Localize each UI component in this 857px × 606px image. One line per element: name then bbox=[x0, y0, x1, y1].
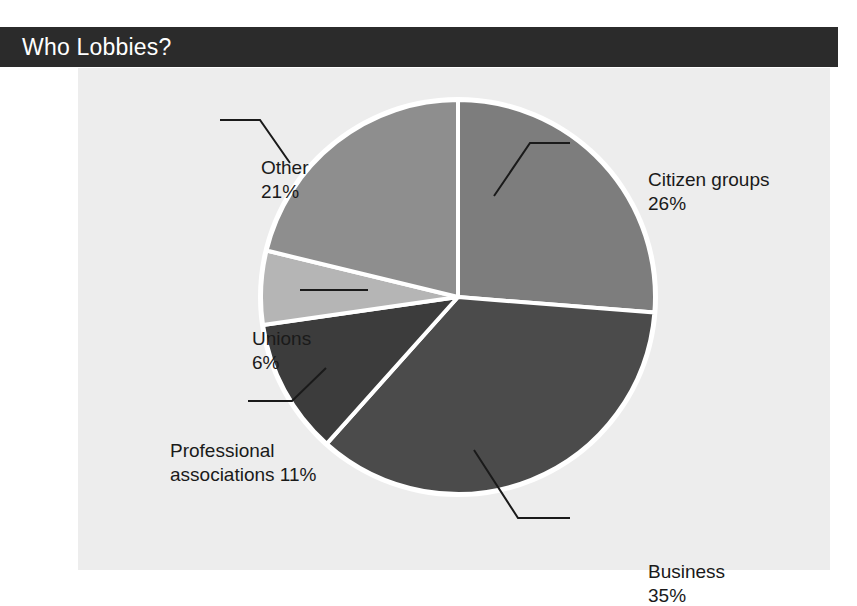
slice-label-citizen-groups-name: Citizen groups bbox=[648, 169, 769, 190]
slice-label-unions-name: Unions bbox=[252, 328, 311, 349]
slice-label-professional-associations: Professional associations 11% bbox=[170, 439, 316, 488]
slice-label-other-name: Other bbox=[261, 157, 309, 178]
slice-label-business-name: Business bbox=[648, 561, 725, 582]
page-title: Who Lobbies? bbox=[0, 34, 171, 61]
slice-label-business: Business 35% bbox=[648, 560, 725, 606]
pie-chart-svg bbox=[78, 68, 830, 570]
title-bar: Who Lobbies? bbox=[0, 27, 838, 67]
slice-label-citizen-groups-value: 26% bbox=[648, 192, 769, 216]
chart-panel: Other 21% Citizen groups 26% Unions 6% P… bbox=[78, 68, 830, 570]
pie-slices bbox=[258, 97, 658, 497]
slice-label-other: Other 21% bbox=[261, 156, 309, 205]
slice-label-professional-associations-line2: associations 11% bbox=[170, 463, 316, 487]
pie-chart bbox=[78, 68, 830, 570]
slice-label-professional-associations-line1: Professional bbox=[170, 440, 275, 461]
slice-label-unions-value: 6% bbox=[252, 351, 311, 375]
pie-slice-citizen-groups bbox=[458, 100, 655, 313]
slice-label-other-value: 21% bbox=[261, 180, 309, 204]
slice-label-business-value: 35% bbox=[648, 584, 725, 606]
slice-label-citizen-groups: Citizen groups 26% bbox=[648, 168, 769, 217]
slice-label-unions: Unions 6% bbox=[252, 327, 311, 376]
